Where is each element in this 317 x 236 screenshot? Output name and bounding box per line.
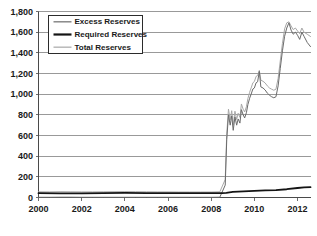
x-axis-tick-label: 2006	[158, 204, 178, 214]
legend-label: Excess Reserves	[75, 17, 141, 26]
x-axis-tick-label: 2008	[201, 204, 221, 214]
legend-label: Total Reserves	[75, 43, 132, 52]
y-axis-tick-label: 200	[18, 172, 33, 182]
reserves-line-chart: 02004006008001,0001,2001,4001,6001,800 2…	[0, 0, 317, 236]
x-axis-tick-label: 2000	[28, 204, 48, 214]
y-axis-tick-label: 1,200	[10, 69, 33, 79]
x-tick-marks-group	[39, 198, 298, 202]
y-axis-tick-label: 800	[18, 110, 33, 120]
y-axis-tick-label: 1,800	[10, 7, 33, 17]
chart-canvas: 02004006008001,0001,2001,4001,6001,800 2…	[0, 0, 317, 236]
x-axis-tick-label: 2012	[288, 204, 308, 214]
legend-label: Required Reserves	[75, 30, 148, 39]
y-axis-tick-label: 600	[18, 131, 33, 141]
x-axis-tick-label: 2004	[115, 204, 135, 214]
y-axis-tick-labels: 02004006008001,0001,2001,4001,6001,800	[10, 7, 33, 203]
series-line-required-reserves	[39, 187, 311, 193]
y-axis-tick-label: 1,600	[10, 27, 33, 37]
x-axis-tick-label: 2002	[72, 204, 92, 214]
y-axis-tick-label: 0	[28, 193, 33, 203]
y-axis-tick-label: 1,400	[10, 48, 33, 58]
y-axis-tick-label: 1,000	[10, 89, 33, 99]
x-axis-tick-label: 2010	[244, 204, 264, 214]
x-axis-tick-labels: 2000200220042006200820102012	[28, 204, 307, 214]
chart-legend: Excess ReservesRequired ReservesTotal Re…	[49, 16, 148, 54]
y-axis-tick-label: 400	[18, 151, 33, 161]
